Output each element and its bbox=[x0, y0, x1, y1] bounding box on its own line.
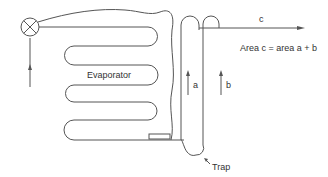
flow-b-arrow-icon bbox=[219, 70, 223, 76]
header-block bbox=[149, 134, 170, 139]
area-equation: Area c = area a + b bbox=[240, 44, 317, 53]
flow-b-label: b bbox=[226, 81, 231, 90]
evaporator-diagram: Evaporator a b c Area c = area a + b Tra… bbox=[0, 0, 328, 177]
evaporator-coil bbox=[39, 27, 158, 140]
expansion-valve-icon bbox=[21, 18, 39, 36]
suction-riser-b bbox=[203, 16, 219, 28]
diagram-canvas bbox=[0, 0, 328, 177]
trap-label: Trap bbox=[212, 163, 230, 172]
evaporator-label: Evaporator bbox=[87, 71, 131, 80]
flow-a-arrow-icon bbox=[186, 70, 190, 76]
flow-a-label: a bbox=[193, 81, 198, 90]
inlet-arrow-icon bbox=[28, 64, 32, 70]
flow-c-label: c bbox=[259, 15, 264, 24]
outlet-arrow-icon bbox=[297, 26, 305, 30]
